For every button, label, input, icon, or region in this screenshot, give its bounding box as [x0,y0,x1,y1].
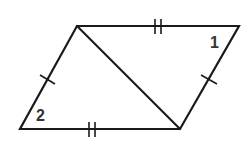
angle-label-1: 1 [210,34,219,51]
parallelogram-diagram: 1 2 [0,0,249,146]
single-tick-mark-left [40,75,55,84]
angle-label-2: 2 [36,107,45,124]
diagonal [77,26,180,129]
